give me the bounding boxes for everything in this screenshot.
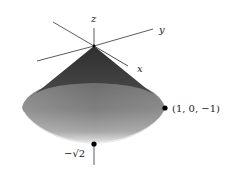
bowl-sheen	[22, 83, 165, 145]
x-axis-label: x	[137, 63, 143, 74]
x-axis-negative	[53, 22, 94, 46]
bottom-point-label: −√2	[64, 148, 85, 159]
y-axis-label: y	[158, 24, 165, 35]
cone-bowl-diagram: z y x (1, 0, −1) −√2	[0, 0, 227, 172]
y-axis-positive	[94, 29, 153, 46]
apex-point	[93, 45, 96, 48]
bottom-point-marker	[91, 141, 96, 146]
rim-point-marker	[162, 105, 167, 110]
z-axis-label: z	[90, 13, 97, 24]
rim-point-label: (1, 0, −1)	[172, 103, 220, 114]
